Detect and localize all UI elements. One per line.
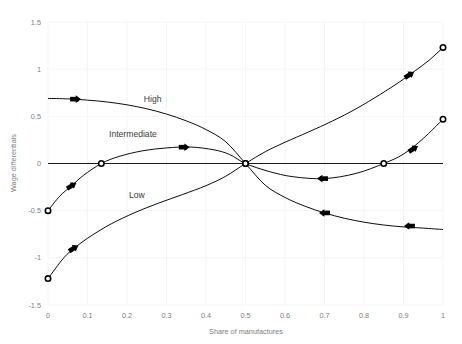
x-axis-title: Share of manufactures: [209, 327, 283, 336]
y-tick-label-1: 1: [37, 65, 41, 74]
endpoint-marker-low-1: [440, 45, 445, 50]
x-tick-label-2: 0.2: [122, 311, 132, 320]
y-tick-label-0: 1.5: [31, 18, 41, 27]
x-tick-label-0: 0: [46, 311, 50, 320]
x-tick-label-7: 0.7: [319, 311, 329, 320]
series-annotation-low: Low: [129, 190, 146, 200]
x-tick-label-9: 0.9: [398, 311, 408, 320]
endpoint-marker-intermediate-1: [440, 116, 445, 121]
x-tick-label-4: 0.4: [201, 311, 211, 320]
x-tick-label-3: 0.3: [161, 311, 171, 320]
y-tick-label-2: 0.5: [31, 112, 41, 121]
wage-differentials-chart: 00.10.20.30.40.50.60.70.80.91 1.510.50-0…: [0, 0, 462, 344]
y-axis-title: Wage differentials: [9, 134, 18, 192]
y-tick-label-3: 0: [37, 159, 41, 168]
chart-canvas: 00.10.20.30.40.50.60.70.80.91 1.510.50-0…: [0, 0, 462, 344]
y-tick-label-5: -1: [35, 253, 42, 262]
y-tick-label-4: -0.5: [28, 206, 41, 215]
endpoint-marker-intermediate-0: [45, 208, 50, 213]
y-tick-label-6: -1.5: [28, 301, 41, 310]
series-annotation-intermediate: Intermediate: [109, 129, 157, 139]
x-tick-label-6: 0.6: [280, 311, 290, 320]
x-tick-label-10: 1: [441, 311, 445, 320]
zero-crossing-marker-low-0: [243, 161, 248, 166]
x-tick-label-1: 0.1: [82, 311, 92, 320]
zero-crossing-marker-intermediate-0: [99, 161, 104, 166]
series-annotation-high: High: [144, 94, 162, 104]
endpoint-marker-low-0: [45, 276, 50, 281]
x-tick-label-5: 0.5: [240, 311, 250, 320]
x-tick-label-8: 0.8: [359, 311, 369, 320]
zero-crossing-marker-intermediate-2: [381, 161, 386, 166]
chart-background: [0, 0, 462, 344]
